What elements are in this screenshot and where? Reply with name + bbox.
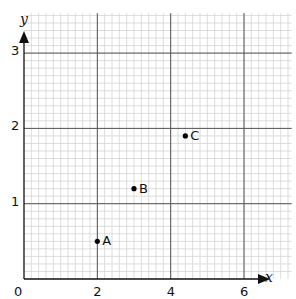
point-b	[131, 186, 136, 191]
point-label-c: C	[190, 129, 199, 142]
point-label-a: A	[102, 234, 111, 247]
y-axis-label: y	[20, 12, 28, 26]
point-label-b: B	[139, 182, 148, 195]
x-tick-label: 4	[167, 285, 175, 298]
coordinate-grid	[0, 0, 296, 299]
y-tick-label: 3	[11, 44, 19, 57]
point-a	[95, 239, 100, 244]
origin-label: 0	[14, 285, 22, 298]
x-tick-label: 6	[240, 285, 248, 298]
axes	[19, 31, 270, 284]
x-axis-label: x	[265, 270, 273, 284]
y-tick-label: 2	[11, 119, 19, 132]
point-c	[183, 133, 188, 138]
x-tick-label: 2	[93, 285, 101, 298]
y-tick-label: 1	[11, 195, 19, 208]
